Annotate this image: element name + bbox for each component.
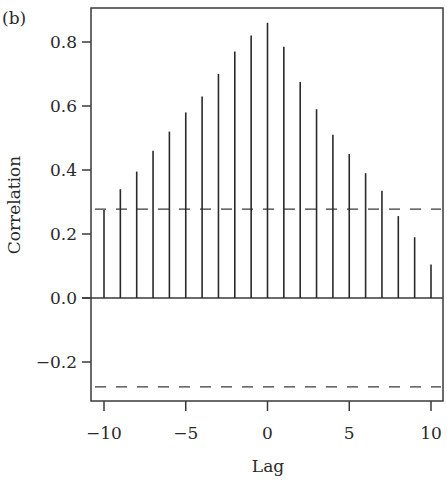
y-tick-label: 0.6 (50, 96, 77, 116)
x-tick-label: −5 (173, 423, 198, 443)
x-tick-label: −10 (86, 423, 122, 443)
x-tick-label: 10 (420, 423, 442, 443)
x-tick-label: 5 (344, 423, 355, 443)
y-tick-label: 0.4 (50, 160, 77, 180)
y-axis-title: Correlation (4, 156, 24, 255)
y-tick-label: 0.0 (50, 288, 77, 308)
x-axis: −10−50510 (86, 401, 442, 443)
y-tick-label: 0.2 (50, 224, 77, 244)
x-axis-title: Lag (252, 456, 284, 476)
x-tick-label: 0 (262, 423, 273, 443)
y-axis: −0.20.00.20.40.60.8 (36, 32, 91, 372)
y-tick-label: −0.2 (36, 352, 77, 372)
ccf-chart: (b) Correlation Lag −0.20.00.20.40.60.8 … (0, 0, 447, 483)
panel-label: (b) (2, 8, 26, 28)
plot-area (82, 23, 443, 387)
y-tick-label: 0.8 (50, 32, 77, 52)
